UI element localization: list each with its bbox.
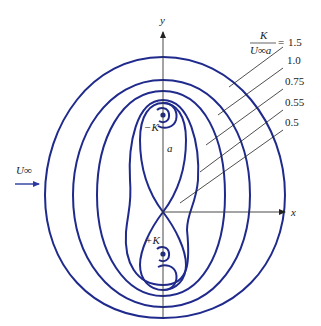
vortex-upper-label: −K	[144, 121, 159, 133]
level-label-1-0: 1.0	[287, 54, 301, 66]
level-label-0-55: 0.55	[285, 96, 305, 108]
parameter-numerator: K	[259, 29, 268, 41]
y-axis-label: y	[159, 14, 165, 26]
freestream-label: U∞	[16, 164, 32, 176]
inner-loop-lower	[158, 265, 176, 290]
level-label-0-5: 0.5	[285, 116, 299, 128]
dimension-a-label: a	[167, 142, 173, 154]
parameter-equals: =	[278, 36, 284, 48]
leader-1-0	[218, 68, 283, 115]
vortex-pair-diagram: y x −K +K a U∞ K U∞a = 1.5 1.0 0.75 0.55…	[0, 0, 321, 326]
parameter-denominator: U∞a	[250, 44, 272, 56]
leader-0-75	[206, 89, 283, 145]
level-label-1-5: 1.5	[288, 36, 302, 48]
x-axis-label: x	[290, 206, 296, 218]
vortex-lower-label: +K	[145, 234, 160, 246]
level-label-0-75: 0.75	[285, 75, 305, 87]
